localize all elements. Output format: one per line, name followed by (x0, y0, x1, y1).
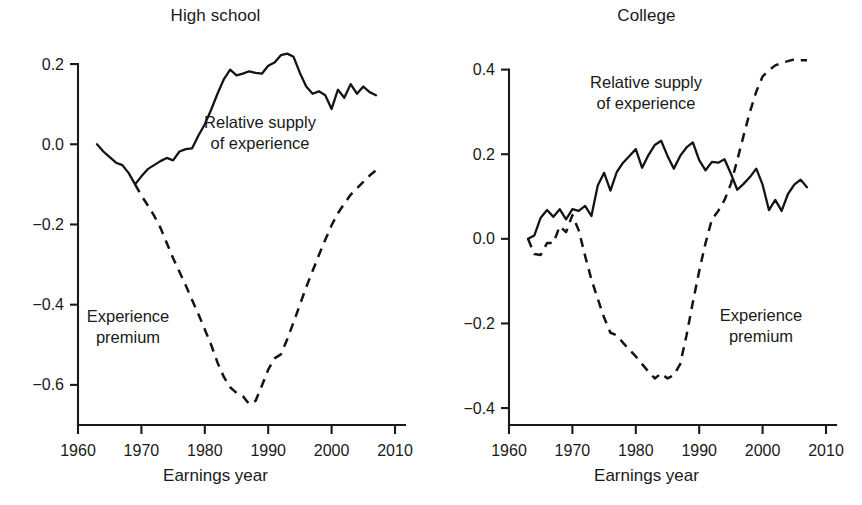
tick-labels-college: 0.40.20.0−0.2−0.419601970198019902000201… (463, 61, 843, 459)
x-tick-label: 1990 (250, 442, 286, 459)
y-tick-label: −0.4 (463, 400, 495, 417)
x-tick-label: 1970 (555, 442, 591, 459)
annotation-experience-premium-high-school: Experience premium (58, 306, 198, 348)
y-tick-label: 0.4 (473, 61, 495, 78)
annotation-relative-supply-college: Relative supply of experience (556, 72, 736, 114)
series-relative-supply-college (528, 141, 807, 239)
annotation-experience-premium-college: Experience premium (686, 305, 836, 347)
panel-college: College 0.40.20.0−0.2−0.4196019701980199… (431, 0, 862, 505)
y-tick-label: −0.2 (463, 315, 495, 332)
x-tick-label: 1990 (681, 442, 717, 459)
panel-high-school: High school 0.20.0−0.2−0.4−0.61960197019… (0, 0, 431, 505)
x-tick-label: 2010 (808, 442, 844, 459)
x-axis-title-high-school: Earnings year (0, 466, 431, 486)
x-tick-label: 1960 (60, 442, 96, 459)
x-tick-label: 1980 (618, 442, 654, 459)
y-tick-label: 0.2 (473, 146, 495, 163)
x-tick-label: 1970 (124, 442, 160, 459)
x-tick-label: 2000 (745, 442, 781, 459)
x-tick-label: 1980 (187, 442, 223, 459)
figure-two-panel-chart: High school 0.20.0−0.2−0.4−0.61960197019… (0, 0, 862, 505)
plot-area-high-school: 0.20.0−0.2−0.4−0.61960197019801990200020… (0, 0, 431, 505)
y-tick-label: −0.2 (32, 216, 64, 233)
y-tick-label: 0.2 (42, 56, 64, 73)
y-tick-label: −0.6 (32, 376, 64, 393)
y-tick-label: 0.0 (473, 230, 495, 247)
annotation-relative-supply-high-school: Relative supply of experience (175, 112, 345, 154)
x-axis-title-college: Earnings year (431, 466, 862, 486)
x-tick-label: 2010 (377, 442, 413, 459)
x-tick-label: 2000 (314, 442, 350, 459)
x-tick-label: 1960 (491, 442, 527, 459)
series-experience-premium-high-school (135, 170, 376, 404)
y-tick-label: 0.0 (42, 136, 64, 153)
